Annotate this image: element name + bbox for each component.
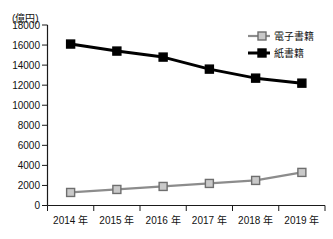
data-point-marker[interactable] bbox=[298, 168, 306, 176]
legend-marker-swatch bbox=[258, 32, 266, 40]
data-point-marker[interactable] bbox=[67, 40, 75, 48]
data-point-marker[interactable] bbox=[159, 182, 167, 190]
legend-item-paper[interactable]: 紙書籍 bbox=[248, 47, 304, 59]
series-line bbox=[71, 172, 302, 192]
legend-label: 電子書籍 bbox=[274, 30, 314, 42]
chart-container: (億円) 02000400060008000100001200014000160… bbox=[0, 0, 333, 239]
data-point-marker[interactable] bbox=[252, 74, 260, 82]
series-layer bbox=[67, 40, 306, 196]
x-tick-label: 2017 年 bbox=[192, 214, 227, 226]
x-tick-label: 2018 年 bbox=[238, 214, 273, 226]
series-ebook bbox=[67, 168, 306, 196]
line-chart-plot: 0200040006000800010000120001400016000180… bbox=[0, 0, 333, 239]
legend-marker-swatch bbox=[258, 49, 266, 57]
data-point-marker[interactable] bbox=[252, 176, 260, 184]
y-tick-label: 16000 bbox=[12, 40, 40, 51]
legend-item-ebook[interactable]: 電子書籍 bbox=[248, 30, 314, 42]
chart-legend: 電子書籍紙書籍 bbox=[248, 30, 314, 59]
legend-label: 紙書籍 bbox=[274, 47, 304, 59]
x-tick-group: 2014 年2015 年2016 年2017 年2018 年2019 年 bbox=[48, 206, 326, 227]
y-tick-label: 6000 bbox=[18, 140, 41, 151]
x-tick-label: 2014 年 bbox=[53, 214, 88, 226]
y-tick-group: 0200040006000800010000120001400016000180… bbox=[12, 20, 47, 212]
x-tick-label: 2016 年 bbox=[146, 214, 181, 226]
data-point-marker[interactable] bbox=[159, 53, 167, 61]
data-point-marker[interactable] bbox=[205, 179, 213, 187]
data-point-marker[interactable] bbox=[113, 47, 121, 55]
x-tick-label: 2019 年 bbox=[284, 214, 319, 226]
y-tick-label: 14000 bbox=[12, 60, 40, 71]
y-tick-label: 10000 bbox=[12, 100, 40, 111]
y-tick-label: 18000 bbox=[12, 20, 40, 31]
series-line bbox=[71, 44, 302, 83]
data-point-marker[interactable] bbox=[67, 188, 75, 196]
data-point-marker[interactable] bbox=[298, 79, 306, 87]
y-tick-label: 4000 bbox=[18, 160, 41, 171]
y-tick-label: 8000 bbox=[18, 120, 41, 131]
y-tick-label: 0 bbox=[34, 200, 40, 211]
series-paper bbox=[67, 40, 306, 87]
data-point-marker[interactable] bbox=[205, 65, 213, 73]
x-tick-label: 2015 年 bbox=[99, 214, 134, 226]
y-tick-label: 2000 bbox=[18, 180, 41, 191]
y-tick-label: 12000 bbox=[12, 80, 40, 91]
data-point-marker[interactable] bbox=[113, 185, 121, 193]
